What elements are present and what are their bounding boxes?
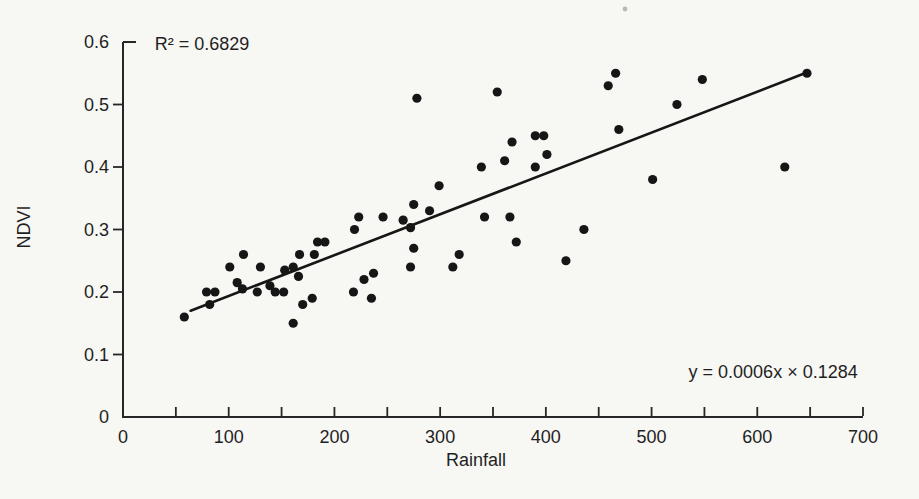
data-point [493,87,502,96]
data-point [289,319,298,328]
data-point [500,156,509,165]
data-point [648,175,657,184]
scan-speck [623,7,628,12]
data-point [434,181,443,190]
data-point [406,262,415,271]
data-point [698,75,707,84]
data-point [539,131,548,140]
data-point [531,131,540,140]
x-tick-label: 500 [637,427,667,447]
data-point [294,272,303,281]
y-tick-label: 0 [99,407,109,427]
data-point [378,212,387,221]
data-point [367,294,376,303]
data-point [477,162,486,171]
x-tick-label: 300 [425,427,455,447]
data-point [350,225,359,234]
x-tick-label: 0 [118,427,128,447]
data-point [354,212,363,221]
data-point [295,250,304,259]
data-point [780,162,789,171]
x-tick-label: 600 [742,427,772,447]
chart-background [0,0,919,499]
data-point [310,250,319,259]
data-point [298,300,307,309]
y-tick-label: 0.1 [84,345,109,365]
data-point [611,69,620,78]
data-point [579,225,588,234]
data-point [672,100,681,109]
y-tick-label: 0.6 [84,32,109,52]
data-point [412,94,421,103]
data-point [256,262,265,271]
data-point [505,212,514,221]
scan-speck-group [623,7,628,12]
data-point [253,287,262,296]
x-tick-label: 200 [319,427,349,447]
data-point [480,212,489,221]
data-point [561,256,570,265]
data-point [409,200,418,209]
scatter-chart: 00.10.20.30.40.50.6 01002003004005006007… [0,0,919,499]
data-point [614,125,623,134]
data-point [542,150,551,159]
data-point [320,237,329,246]
x-tick-label: 100 [214,427,244,447]
data-point [349,287,358,296]
data-point [180,312,189,321]
data-point [279,287,288,296]
data-point [225,262,234,271]
y-tick-label: 0.4 [84,157,109,177]
scanned-figure: 00.10.20.30.40.50.6 01002003004005006007… [0,0,919,499]
data-point [604,81,613,90]
equation-annotation: y = 0.0006x × 0.1284 [689,362,858,382]
y-tick-label: 0.3 [84,220,109,240]
data-point [210,287,219,296]
data-point [507,137,516,146]
x-tick-label: 400 [531,427,561,447]
data-point [455,250,464,259]
x-axis-label: Rainfall [446,450,506,470]
data-point [409,244,418,253]
data-point [399,216,408,225]
x-tick-label: 700 [848,427,878,447]
y-tick-label: 0.2 [84,282,109,302]
y-tick-label: 0.5 [84,95,109,115]
data-point [369,269,378,278]
data-point [271,287,280,296]
data-point [531,162,540,171]
data-point [202,287,211,296]
r-squared-annotation: R² = 0.6829 [155,34,250,54]
data-point [308,294,317,303]
data-point [448,262,457,271]
y-axis-label: NDVI [14,205,34,248]
data-point [359,275,368,284]
data-point [512,237,521,246]
data-point [425,206,434,215]
data-point [239,250,248,259]
